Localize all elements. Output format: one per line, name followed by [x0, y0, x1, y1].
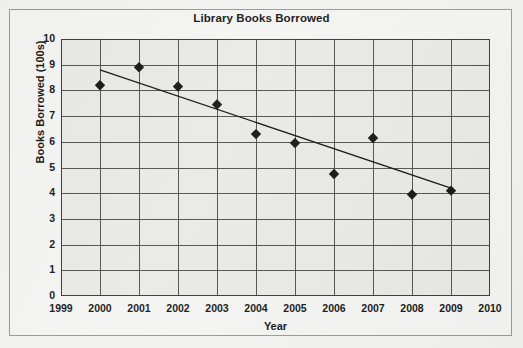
y-axis-label: Books Borrowed (100s): [34, 0, 46, 212]
plot-svg: [61, 39, 490, 296]
plot-background: [61, 39, 490, 296]
chart-page: Library Books Borrowed 109876543210 1999…: [0, 0, 523, 348]
chart-title: Library Books Borrowed: [0, 12, 523, 24]
x-axis-label: Year: [61, 320, 490, 332]
plot-area: [61, 39, 490, 296]
